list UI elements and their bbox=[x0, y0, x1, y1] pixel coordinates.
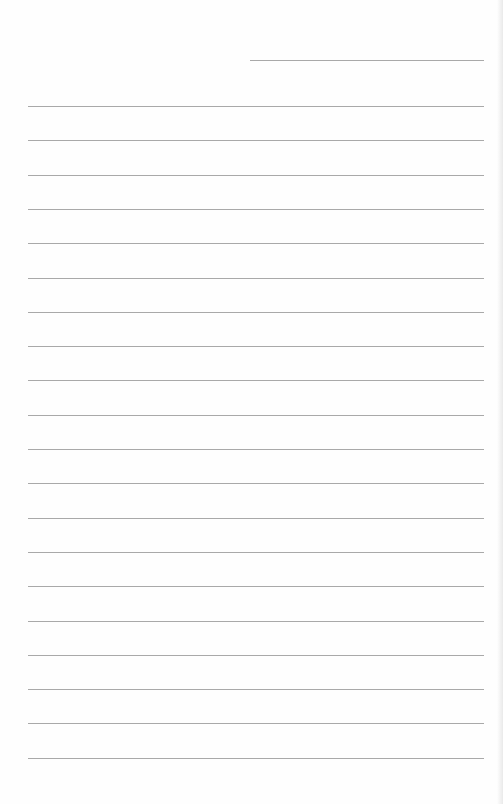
ruled-line bbox=[28, 243, 484, 244]
page-edge-shadow bbox=[497, 0, 503, 804]
ruled-line bbox=[28, 449, 484, 450]
ruled-line bbox=[28, 586, 484, 587]
ruled-line bbox=[28, 209, 484, 210]
ruled-line bbox=[28, 758, 484, 759]
lined-paper-page bbox=[0, 0, 503, 804]
ruled-line bbox=[28, 140, 484, 141]
ruled-line bbox=[28, 723, 484, 724]
ruled-line bbox=[28, 175, 484, 176]
ruled-line bbox=[28, 518, 484, 519]
ruled-line bbox=[28, 346, 484, 347]
ruled-line bbox=[28, 552, 484, 553]
ruled-line bbox=[28, 655, 484, 656]
ruled-line bbox=[28, 380, 484, 381]
ruled-line bbox=[28, 415, 484, 416]
ruled-line bbox=[28, 312, 484, 313]
ruled-line bbox=[28, 621, 484, 622]
ruled-line bbox=[28, 278, 484, 279]
header-line bbox=[250, 60, 484, 61]
ruled-line bbox=[28, 483, 484, 484]
ruled-line bbox=[28, 689, 484, 690]
ruled-line bbox=[28, 106, 484, 107]
